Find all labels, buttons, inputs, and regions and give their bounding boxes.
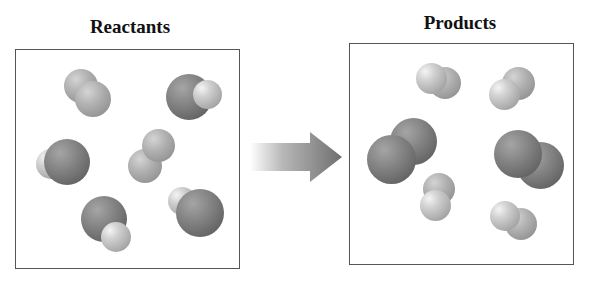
- atom-icon: [489, 79, 520, 110]
- atom-icon: [494, 130, 542, 178]
- atom-icon: [367, 135, 416, 184]
- products-box: [349, 43, 574, 265]
- atom-icon: [490, 201, 520, 231]
- atom-icon: [420, 190, 451, 221]
- atom-icon: [416, 63, 447, 94]
